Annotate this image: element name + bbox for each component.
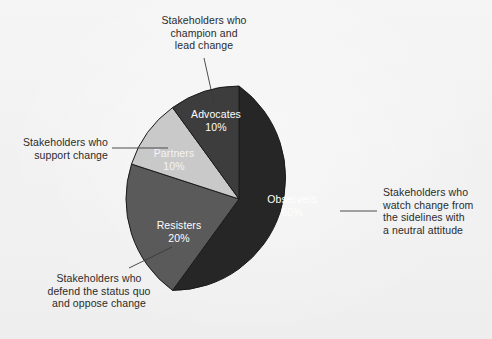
annotation-resisters: Stakeholders who defend the status quo a… <box>25 272 173 310</box>
annotation-advocates: Stakeholders who champion and lead chang… <box>138 14 270 52</box>
annotation-partners: Stakeholders who support change <box>8 136 108 161</box>
annotation-observers: Stakeholders who watch change from the s… <box>383 186 487 236</box>
slice-label-observers: Observers 60% <box>252 193 332 218</box>
slice-label-partners: Partners 10% <box>134 147 214 172</box>
slice-label-advocates: Advocates 10% <box>176 108 256 133</box>
chart-canvas: Advocates 10% Partners 10% Resisters 20%… <box>0 0 492 339</box>
slice-label-resisters: Resisters 20% <box>139 219 219 244</box>
